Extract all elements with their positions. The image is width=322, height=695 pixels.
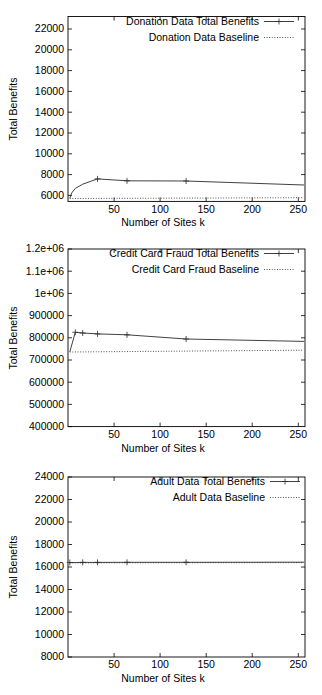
y-axis-tick-labels-adult: 24000 22000 20000 18000 16000 14000 1200…: [35, 471, 64, 663]
y-axis-tick-labels-ccf: 1.2e+06 1.1e+06 1e+06 900000 800000 7000…: [26, 242, 64, 432]
legend-marker-total-benefits: [276, 250, 282, 256]
legend-donation: Donation Data Total Benefits Donation Da…: [126, 15, 294, 43]
x-tick-label: 50: [108, 203, 120, 215]
chart-svg-credit-card-fraud: 1.2e+06 1.1e+06 1e+06 900000 800000 7000…: [0, 232, 322, 464]
x-tick-label: 250: [290, 658, 308, 670]
legend-adult: Adult Data Total Benefits Adult Data Bas…: [150, 475, 300, 503]
series-baseline-ccf: [70, 350, 303, 352]
x-axis-ticks-ccf: [114, 249, 298, 427]
chart-panel-donation-data: 22000 20000 18000 16000 14000 12000 1000…: [0, 0, 322, 232]
x-axis-ticks-donation: [114, 17, 298, 202]
x-tick-label: 250: [290, 203, 308, 215]
x-tick-label: 100: [151, 427, 169, 439]
legend-marker-total-benefits: [276, 19, 282, 25]
figure-three-panel-line-charts: 22000 20000 18000 16000 14000 12000 1000…: [0, 0, 322, 695]
x-tick-label: 250: [290, 427, 308, 439]
y-axis-ticks-adult: [68, 477, 305, 657]
x-axis-ticks-adult: [114, 477, 298, 657]
chart-svg-adult-data: 24000 22000 20000 18000 16000 14000 1200…: [0, 463, 322, 695]
x-axis-title: Number of Sites k: [121, 216, 205, 228]
y-tick-label: 400000: [29, 420, 64, 432]
y-tick-label: 1e+06: [35, 286, 65, 298]
legend-label-baseline: Adult Data Baseline: [173, 491, 265, 503]
y-tick-label: 14000: [35, 106, 64, 118]
y-tick-label: 6000: [41, 189, 65, 201]
y-tick-label: 600000: [29, 375, 64, 387]
series-total-benefits-donation: [70, 176, 304, 198]
y-tick-label: 700000: [29, 353, 64, 365]
y-tick-label: 800000: [29, 331, 64, 343]
x-tick-label: 200: [243, 427, 261, 439]
y-tick-label: 20000: [35, 516, 64, 528]
y-tick-label: 10000: [35, 147, 64, 159]
y-tick-label: 500000: [29, 397, 64, 409]
y-tick-label: 10000: [35, 628, 64, 640]
y-tick-label: 8000: [41, 651, 65, 663]
legend-label-total-benefits: Credit Card Fraud Total Benefits: [109, 247, 259, 259]
x-axis-title: Number of Sites k: [121, 672, 205, 684]
y-tick-label: 12000: [35, 606, 64, 618]
x-tick-label: 50: [108, 658, 120, 670]
y-tick-label: 22000: [35, 22, 64, 34]
x-axis-tick-labels-ccf: 50 100 150 200 250: [108, 427, 307, 439]
legend-label-baseline: Credit Card Fraud Baseline: [132, 263, 259, 275]
x-tick-label: 200: [243, 203, 261, 215]
x-axis-tick-labels-donation: 50 100 150 200 250: [108, 203, 307, 215]
y-tick-label: 22000: [35, 493, 64, 505]
x-tick-label: 200: [243, 658, 261, 670]
x-tick-label: 100: [151, 658, 169, 670]
y-tick-label: 900000: [29, 309, 64, 321]
chart-svg-donation: 22000 20000 18000 16000 14000 12000 1000…: [0, 0, 322, 232]
y-axis-title: Total Benefits: [7, 536, 19, 599]
series-total-benefits-ccf: [70, 329, 304, 352]
y-tick-label: 18000: [35, 64, 64, 76]
chart-panel-adult-data: 24000 22000 20000 18000 16000 14000 1200…: [0, 463, 322, 695]
x-axis-tick-labels-adult: 50 100 150 200 250: [108, 658, 307, 670]
x-tick-label: 50: [108, 427, 120, 439]
y-tick-label: 1.1e+06: [26, 264, 64, 276]
x-tick-label: 100: [151, 203, 169, 215]
y-tick-label: 8000: [41, 168, 65, 180]
x-tick-label: 150: [197, 427, 215, 439]
x-tick-label: 150: [197, 203, 215, 215]
y-axis-ticks-donation: [68, 29, 305, 195]
plot-frame-adult: [68, 477, 305, 657]
y-tick-label: 20000: [35, 43, 64, 55]
y-axis-title: Total Benefits: [7, 77, 19, 140]
y-tick-label: 18000: [35, 538, 64, 550]
y-tick-label: 24000: [35, 471, 64, 483]
x-tick-label: 150: [197, 658, 215, 670]
series-total-benefits-adult: [67, 559, 304, 565]
series-markers-ccf: [72, 329, 189, 342]
y-tick-label: 16000: [35, 561, 64, 573]
x-axis-title: Number of Sites k: [121, 442, 205, 454]
y-tick-label: 16000: [35, 85, 64, 97]
legend-label-total-benefits: Adult Data Total Benefits: [150, 475, 265, 487]
legend-marker-total-benefits: [282, 479, 288, 485]
y-axis-tick-labels-donation: 22000 20000 18000 16000 14000 12000 1000…: [35, 22, 64, 200]
y-axis-title: Total Benefits: [7, 306, 19, 369]
y-tick-label: 12000: [35, 126, 64, 138]
legend-ccf: Credit Card Fraud Total Benefits Credit …: [109, 247, 294, 275]
chart-panel-credit-card-fraud: 1.2e+06 1.1e+06 1e+06 900000 800000 7000…: [0, 232, 322, 464]
y-tick-label: 1.2e+06: [26, 242, 64, 254]
legend-label-baseline: Donation Data Baseline: [149, 31, 259, 43]
series-baseline-donation: [70, 198, 303, 199]
legend-label-total-benefits: Donation Data Total Benefits: [126, 15, 259, 27]
plot-frame-donation: [68, 17, 305, 202]
y-tick-label: 14000: [35, 583, 64, 595]
